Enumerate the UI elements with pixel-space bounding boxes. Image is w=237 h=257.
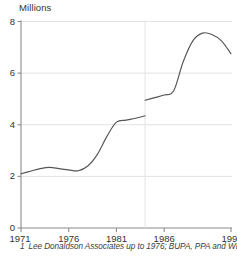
footnote-text: Lee Donaldson Associates up to 1976; BUP… xyxy=(29,242,237,251)
y-tick-label-6: 6 xyxy=(1,68,15,78)
chart-figure: Millions 02468 19711976198119861993 1Lee… xyxy=(0,0,237,257)
y-tick-label-0: 0 xyxy=(1,223,15,233)
plot-area: 02468 19711976198119861993 xyxy=(0,0,237,240)
x-tick-marks-group xyxy=(21,228,231,232)
data-series-group xyxy=(21,33,231,174)
line-chart-svg xyxy=(0,0,237,240)
y-tick-label-2: 2 xyxy=(1,171,15,181)
footnote: 1Lee Donaldson Associates up to 1976; BU… xyxy=(20,242,235,251)
y-tick-label-8: 8 xyxy=(1,17,15,27)
series-line-2 xyxy=(145,33,231,101)
gridlines-group xyxy=(21,22,232,177)
footnote-marker: 1 xyxy=(20,242,25,251)
y-tick-label-4: 4 xyxy=(1,120,15,130)
